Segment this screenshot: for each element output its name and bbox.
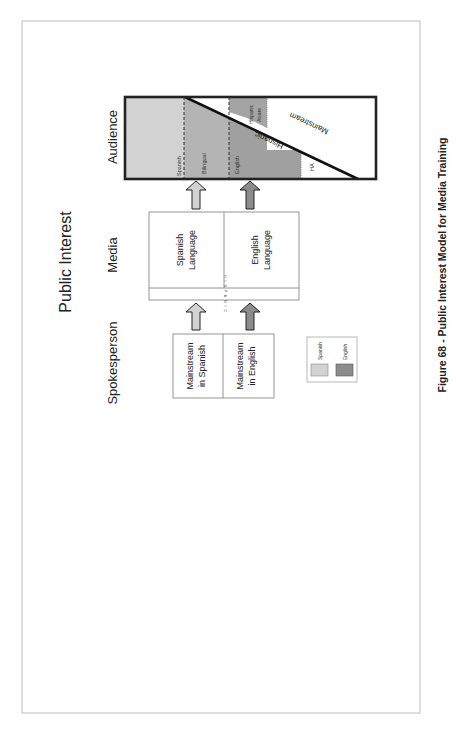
figure-caption: Figure 68 - Public Interest Model for Me… [436,138,448,393]
legend-swatch-english [336,364,353,376]
column-header-media: Media [105,237,120,273]
audience-label-bilingual: Bilingual [201,153,207,174]
diagram-canvas: Public Interest Spokesperson Media Audie… [0,0,456,736]
figure-title: Public Interest [57,211,74,313]
spokesperson-box: Mainstream in Spanish Mainstream in Engl… [173,334,274,398]
legend-label-english: English [342,343,348,360]
media-hispanic-strip-label: H I S P A N I C [223,275,227,313]
spokesperson-spanish-label-1: Mainstream [185,342,195,389]
spokesperson-english-label-2: in English [247,346,257,385]
audience-label-ha: HA [309,163,315,171]
audience-label-english: English [234,156,240,174]
column-header-audience: Audience [105,110,120,164]
media-spanish-label-1: Spanish [175,234,185,267]
audience-segment-english-lower [267,150,301,179]
column-header-spokesperson: Spokesperson [105,321,120,404]
legend: Spanish English [307,337,357,382]
spokesperson-english-label-1: Mainstream [235,342,245,389]
media-english-label-1: English [250,235,260,265]
audience-label-hispanic-aware-2: Aware [256,108,262,122]
audience-label-spanish: Spanish [176,156,182,176]
audience-box: Spanish Bilingual English Hispanic Aware… [125,97,376,179]
legend-swatch-spanish [311,364,328,376]
media-box: H I S P A N I C Spanish Language English… [149,212,299,313]
media-english-label-2: Language [262,230,272,270]
spokesperson-spanish-label-2: in Spanish [197,345,207,387]
media-spanish-label-2: Language [187,230,197,270]
audience-label-hispanic-aware-1: Hispanic [248,104,254,124]
legend-label-spanish: Spanish [317,342,323,360]
